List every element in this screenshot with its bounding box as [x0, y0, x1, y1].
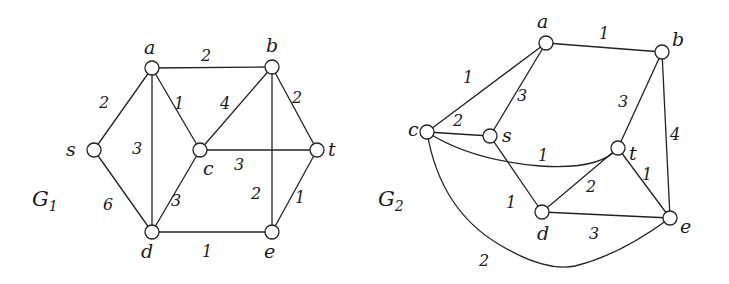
- vertex-label: b: [266, 34, 278, 56]
- vertex-t: [310, 143, 324, 157]
- edge-c-s: [427, 132, 490, 136]
- vertex-e: [663, 211, 677, 225]
- vertex-label: d: [537, 222, 549, 244]
- vertex-label: t: [328, 138, 336, 160]
- graph-title: G2: [378, 187, 404, 214]
- edge-weight-label: 3: [132, 139, 142, 158]
- edge-weight-label: 2: [478, 251, 489, 270]
- vertex-label: c: [203, 157, 214, 179]
- edge-weight-label: 4: [219, 94, 230, 113]
- vertex-a: [145, 61, 159, 75]
- edge-weight-label: 1: [599, 24, 609, 43]
- vertex-d: [145, 225, 159, 239]
- vertex-t: [611, 141, 625, 155]
- edge-weight-label: 1: [538, 146, 548, 165]
- vertex-a: [539, 36, 553, 50]
- edge-c-a: [427, 43, 546, 132]
- edge-weight-label: 2: [250, 184, 261, 203]
- edge-weight-label: 1: [295, 188, 305, 207]
- edge-weight-label: 1: [642, 165, 652, 184]
- edge-b-t: [272, 67, 317, 150]
- edge-d-e: [542, 212, 670, 218]
- edge-weight-label: 2: [291, 88, 302, 107]
- edge-c-t: [427, 132, 618, 167]
- edge-weight-label: 1: [202, 242, 212, 261]
- vertex-c: [193, 143, 207, 157]
- edge-weight-label: 3: [171, 191, 181, 210]
- edge-weight-label: 3: [517, 86, 527, 105]
- vertex-b: [655, 45, 669, 59]
- vertex-b: [265, 60, 279, 74]
- edge-weight-label: 3: [234, 155, 244, 174]
- edge-d-t: [542, 148, 618, 212]
- edge-weight-label: 1: [463, 68, 473, 87]
- edge-weight-label: 3: [589, 224, 599, 243]
- edge-c-b: [200, 67, 272, 150]
- edge-weight-label: 6: [103, 195, 113, 214]
- vertex-label: a: [144, 36, 155, 58]
- vertex-d: [535, 205, 549, 219]
- vertex-label: d: [141, 240, 153, 262]
- graph-figure: 221342236311absctdeG1 113234112132abcstd…: [0, 0, 729, 284]
- vertex-label: b: [672, 28, 684, 50]
- edge-weight-label: 2: [98, 93, 109, 112]
- vertex-c: [420, 125, 434, 139]
- graph-g1: 221342236311absctdeG1: [32, 34, 336, 262]
- graph-title: G1: [32, 187, 58, 214]
- edge-weight-label: 2: [585, 177, 596, 196]
- vertex-label: e: [264, 240, 275, 262]
- vertex-s: [87, 143, 101, 157]
- edge-s-d: [94, 150, 152, 232]
- vertex-label: e: [680, 215, 691, 237]
- edge-weight-label: 2: [452, 111, 463, 130]
- edge-weight-label: 1: [174, 94, 184, 113]
- edge-weight-label: 3: [618, 92, 628, 111]
- edge-weight-label: 1: [506, 193, 516, 212]
- graph-g2: 113234112132abcstdeG2: [378, 10, 691, 270]
- vertex-label: t: [629, 142, 637, 164]
- edge-a-b: [152, 67, 272, 68]
- edge-b-e: [662, 52, 670, 218]
- vertex-label: a: [537, 10, 548, 32]
- edge-weight-label: 2: [200, 46, 211, 65]
- edge-a-b: [546, 43, 662, 52]
- vertex-label: s: [66, 138, 76, 160]
- vertex-s: [483, 129, 497, 143]
- vertex-label: c: [408, 118, 419, 140]
- vertex-e: [265, 225, 279, 239]
- edge-weight-label: 4: [669, 125, 680, 144]
- vertex-label: s: [502, 124, 512, 146]
